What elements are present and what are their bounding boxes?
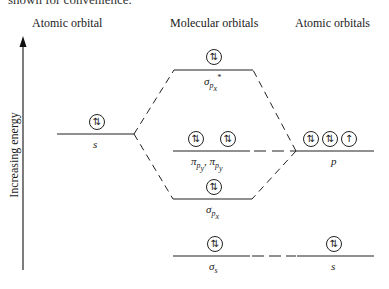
electron-pair-icon: ⇅ bbox=[188, 131, 204, 147]
antibonding-star: * bbox=[217, 73, 221, 82]
orbital-label-left-s: s bbox=[93, 138, 97, 150]
orbital-label-pi-py: πpy, πpy bbox=[191, 155, 223, 173]
electron-pair-icon: ⇅ bbox=[207, 236, 223, 252]
sub-s: s bbox=[214, 266, 217, 275]
sub-x: x bbox=[215, 212, 219, 221]
pi-symbol-2: , π bbox=[204, 155, 215, 167]
electron-pair-icon: ⇅ bbox=[322, 131, 338, 147]
orbital-label-sigma-px-star: σpx* bbox=[204, 73, 221, 92]
orbital-label-sigma-px: σpx bbox=[206, 203, 219, 221]
orbital-label-sigma-s: σs bbox=[209, 260, 218, 275]
electron-pair-icon: ⇅ bbox=[206, 49, 222, 65]
electron-pair-icon: ⇅ bbox=[89, 114, 105, 130]
sub-y: y bbox=[219, 164, 223, 173]
orbital-label-right-p: p bbox=[331, 155, 337, 167]
energy-axis-label: Increasing energy bbox=[7, 110, 22, 199]
electron-pair-icon: ⇅ bbox=[220, 131, 236, 147]
electron-pair-icon: ⇅ bbox=[326, 236, 342, 252]
electron-single-icon: ↑ bbox=[341, 131, 357, 147]
energy-axis-arrowhead-icon bbox=[20, 36, 27, 47]
sub-x: x bbox=[213, 83, 217, 92]
orbital-label-right-s: s bbox=[331, 260, 335, 272]
electron-pair-icon: ⇅ bbox=[303, 131, 319, 147]
electron-pair-icon: ⇅ bbox=[206, 179, 222, 195]
